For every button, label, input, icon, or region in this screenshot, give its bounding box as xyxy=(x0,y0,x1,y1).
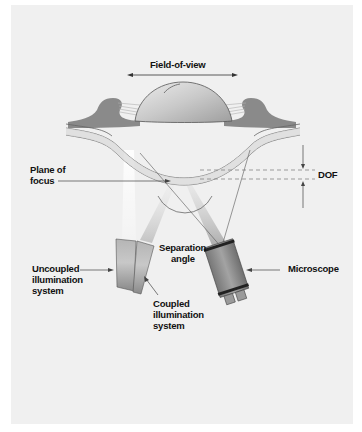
microscope-label: Microscope xyxy=(288,264,339,275)
field-of-view-arrow xyxy=(127,73,238,77)
uncoupled-illumination-system xyxy=(116,239,136,291)
separation-angle-label-line2: angle xyxy=(171,254,195,265)
uncoupled-label-line3: system xyxy=(32,286,64,297)
coupled-label-line1: Coupled xyxy=(153,299,190,310)
cornea xyxy=(66,124,300,185)
plane-of-focus-label-line2: focus xyxy=(30,176,54,187)
dof-arrows xyxy=(301,145,305,208)
coupled-label-line2: illumination xyxy=(153,310,204,321)
plane-of-focus-label-line1: Plane of xyxy=(30,165,65,176)
microscope-arrow xyxy=(246,268,280,272)
dof-label: DOF xyxy=(318,170,337,181)
coupled-illumination-beam xyxy=(140,184,175,243)
uncoupled-label-line1: Uncoupled xyxy=(32,264,79,275)
microscope xyxy=(203,238,252,306)
uncoupled-arrow xyxy=(80,268,114,272)
separation-angle-label-line1: Separation xyxy=(159,243,206,254)
coupled-label-line3: system xyxy=(153,321,185,332)
field-of-view-label: Field-of-view xyxy=(150,60,205,71)
coupled-arrow xyxy=(144,276,158,295)
uncoupled-label-line2: illumination xyxy=(32,275,83,286)
microscope-beam xyxy=(186,184,228,250)
lens xyxy=(135,82,232,123)
